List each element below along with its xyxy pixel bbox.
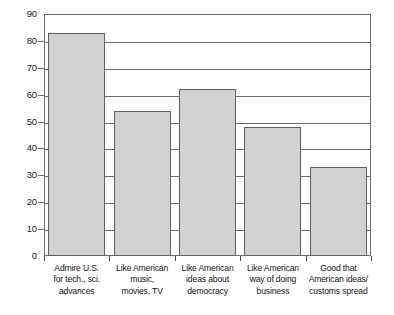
bar-admire-us-tech-sci-advances[interactable]: [48, 33, 105, 256]
bar-good-that-american-ideas-customs-spread[interactable]: [310, 167, 367, 256]
x-label-line: way of doing: [241, 274, 304, 285]
x-label-like-american-music-movies-tv: Like Americanmusic,movies, TV: [109, 263, 174, 311]
bar-chart: 90 80 70 60 50 40 30 20 10 0 Admi: [0, 0, 394, 315]
y-tick-label: 10: [27, 224, 37, 234]
bars-layer: [44, 14, 371, 256]
bar-slot: [240, 14, 305, 256]
x-label-line: ideas about: [176, 274, 239, 285]
x-label-line: business: [241, 286, 304, 297]
x-axis-ticks: [44, 256, 371, 262]
y-tick-label: 30: [27, 171, 37, 181]
bar-slot: [175, 14, 240, 256]
x-label-line: Good that: [307, 263, 370, 274]
x-tick-mark: [109, 256, 110, 261]
bar-like-american-music-movies-tv[interactable]: [114, 111, 171, 256]
bar-slot: [306, 14, 371, 256]
x-label-line: Admire U.S.: [45, 263, 108, 274]
x-label-line: Like American: [241, 263, 304, 274]
x-label-line: American ideas/: [307, 274, 370, 285]
x-tick-mark: [175, 256, 176, 261]
x-tick-mark: [371, 256, 372, 261]
y-tick-label: 70: [27, 63, 37, 73]
x-label-admire-us-tech-sci-advances: Admire U.S.for tech., sci.advances: [44, 263, 109, 311]
y-tick-label: 0: [32, 251, 37, 261]
x-tick-mark: [44, 256, 45, 261]
x-label-like-american-way-of-doing-business: Like Americanway of doingbusiness: [240, 263, 305, 311]
bar-like-american-way-of-doing-business[interactable]: [244, 127, 301, 256]
y-tick-label: 60: [27, 90, 37, 100]
x-label-like-american-ideas-about-democracy: Like Americanideas aboutdemocracy: [175, 263, 240, 311]
x-label-line: democracy: [176, 286, 239, 297]
y-tick-label: 50: [27, 117, 37, 127]
y-axis: 90 80 70 60 50 40 30 20 10 0: [0, 0, 44, 256]
x-tick-mark: [240, 256, 241, 261]
x-label-line: customs spread: [307, 286, 370, 297]
x-label-line: Like American: [110, 263, 173, 274]
x-label-line: for tech., sci.: [45, 274, 108, 285]
bar-slot: [109, 14, 174, 256]
x-tick-mark: [306, 256, 307, 261]
x-axis-labels: Admire U.S.for tech., sci.advances Like …: [44, 263, 371, 311]
x-label-good-that-american-ideas-customs-spread: Good thatAmerican ideas/customs spread: [306, 263, 371, 311]
bar-slot: [44, 14, 109, 256]
y-tick-label: 80: [27, 36, 37, 46]
x-label-line: movies, TV: [110, 286, 173, 297]
x-label-line: Like American: [176, 263, 239, 274]
y-tick-label: 90: [27, 9, 37, 19]
x-label-line: advances: [45, 286, 108, 297]
y-tick-label: 20: [27, 197, 37, 207]
y-tick-label: 40: [27, 144, 37, 154]
x-label-line: music,: [110, 274, 173, 285]
bar-like-american-ideas-about-democracy[interactable]: [179, 89, 236, 256]
